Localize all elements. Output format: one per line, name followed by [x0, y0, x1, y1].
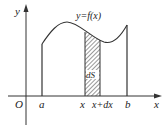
tick-label-b: b [125, 98, 131, 110]
y-axis [24, 4, 29, 125]
y-axis-arrow-icon [24, 4, 29, 12]
integral-area-diagram: y O x y=f(x) dS a x x+dx b [0, 0, 166, 129]
tick-label-x-plus-dx: x+dx [91, 99, 113, 110]
origin-label: O [15, 98, 23, 110]
tick-label-x: x [79, 98, 85, 110]
curve-label: y=f(x) [75, 10, 102, 22]
strip-label: dS [86, 70, 96, 80]
tick-label-a: a [39, 98, 45, 110]
x-axis-label: x [153, 98, 159, 110]
differential-strip [42, 22, 127, 96]
y-axis-label: y [14, 5, 20, 17]
